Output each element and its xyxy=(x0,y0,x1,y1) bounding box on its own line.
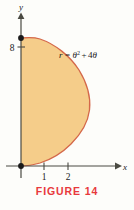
x-tick-label-2: 2 xyxy=(66,172,71,182)
y-axis-arrowhead xyxy=(18,13,25,20)
svg-text:r=θ2+4θ: r=θ2+4θ xyxy=(59,50,98,60)
x-axis-arrowhead xyxy=(115,163,122,170)
equation-equals: = xyxy=(65,50,70,60)
equation-plus: + xyxy=(82,50,87,60)
shaded-region xyxy=(21,38,90,166)
equation-exponent: 2 xyxy=(77,50,80,56)
x-axis-label: x xyxy=(122,162,127,172)
equation-annotation: r=θ2+4θ xyxy=(59,50,98,60)
y-intercept-point-marker xyxy=(18,35,24,41)
figure-container: x y 1 2 8 r=θ2+4θ FIGURE 14 xyxy=(0,0,134,210)
figure-caption: FIGURE 14 xyxy=(0,185,134,198)
equation-theta-2: θ xyxy=(93,50,98,60)
y-axis-label: y xyxy=(18,2,23,12)
x-tick-label-1: 1 xyxy=(42,172,47,182)
equation-r: r xyxy=(59,50,63,60)
y-tick-label-8: 8 xyxy=(10,43,15,53)
polar-curve-plot: x y 1 2 8 r=θ2+4θ xyxy=(0,0,134,210)
origin-point-marker xyxy=(18,163,24,169)
